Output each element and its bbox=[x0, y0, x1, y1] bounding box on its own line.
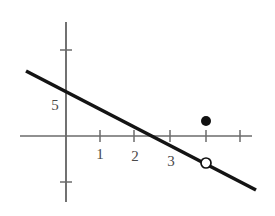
graph-figure: 5 1 2 3 bbox=[0, 0, 275, 216]
y-axis-label-5: 5 bbox=[51, 97, 59, 113]
plotted-line bbox=[26, 71, 256, 190]
open-point-marker bbox=[201, 158, 211, 168]
x-axis-label-2: 2 bbox=[131, 148, 139, 164]
x-axis-label-3: 3 bbox=[167, 153, 175, 169]
x-axis-label-1: 1 bbox=[96, 146, 104, 162]
closed-point-marker bbox=[201, 116, 211, 126]
coordinate-plane-svg: 5 1 2 3 bbox=[0, 0, 275, 216]
